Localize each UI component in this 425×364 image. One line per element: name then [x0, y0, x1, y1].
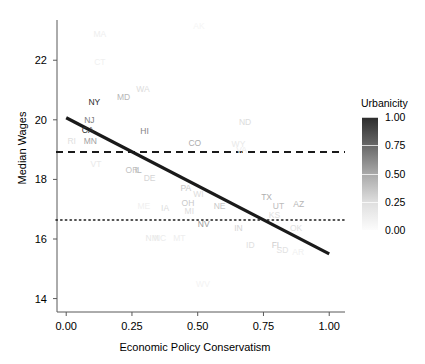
state-label: WI [193, 189, 203, 199]
legend-tick-mark [362, 230, 378, 231]
legend-tick-mark [362, 202, 378, 203]
state-label: MA [93, 29, 106, 39]
x-tick-label: 0.50 [178, 320, 218, 332]
legend-tick-label: 0.00 [385, 224, 405, 236]
x-tick-label: 0.75 [243, 320, 283, 332]
state-label: HI [140, 126, 149, 136]
x-tick-label: 1.00 [309, 320, 349, 332]
state-label: OK [290, 223, 302, 233]
legend-tick-label: 1.00 [385, 111, 405, 123]
y-tick-label: 18 [21, 173, 47, 185]
y-tick-label: 16 [21, 233, 47, 245]
state-label: ND [239, 117, 251, 127]
legend-title: Urbanicity [361, 97, 408, 109]
state-label: NJ [84, 115, 94, 125]
legend-tick-label: 0.50 [385, 168, 405, 180]
state-label: AK [193, 21, 204, 31]
legend-tick-mark [362, 117, 378, 118]
state-label: TX [261, 192, 272, 202]
legend-tick-mark [362, 145, 378, 146]
state-label: WV [196, 279, 210, 289]
state-label: NE [214, 201, 226, 211]
state-label: NC [154, 233, 166, 243]
state-label: PA [181, 183, 192, 193]
x-tick-label: 0.25 [112, 320, 152, 332]
state-label: IL [135, 165, 142, 175]
state-label: NY [88, 97, 100, 107]
state-label: SD [276, 245, 288, 255]
y-tick-label: 14 [21, 293, 47, 305]
state-label: WA [136, 84, 149, 94]
state-label: MI [185, 206, 194, 216]
scatter-plot-figure: Median Wages Economic Policy Conservatis… [0, 0, 425, 364]
y-tick-label: 22 [21, 54, 47, 66]
state-label: VA [236, 145, 247, 155]
state-label: AZ [293, 199, 304, 209]
state-label: AR [292, 247, 304, 257]
state-label: NV [198, 219, 210, 229]
state-label: IA [161, 203, 169, 213]
legend-tick-label: 0.25 [385, 196, 405, 208]
state-label: KS [269, 210, 280, 220]
x-tick-label: 0.00 [46, 320, 86, 332]
state-label: MT [173, 233, 185, 243]
state-label: ME [137, 201, 150, 211]
state-label: ID [246, 240, 255, 250]
state-label: IN [234, 223, 243, 233]
state-label: CO [188, 138, 201, 148]
state-label: VT [90, 159, 101, 169]
state-label: MN [84, 136, 97, 146]
state-label: CA [82, 125, 94, 135]
state-label: RI [67, 136, 76, 146]
legend-tick-mark [362, 174, 378, 175]
state-label: DE [144, 173, 156, 183]
legend-tick-label: 0.75 [385, 139, 405, 151]
state-label: MD [117, 92, 130, 102]
state-label: CT [94, 57, 105, 67]
y-tick-label: 20 [21, 114, 47, 126]
